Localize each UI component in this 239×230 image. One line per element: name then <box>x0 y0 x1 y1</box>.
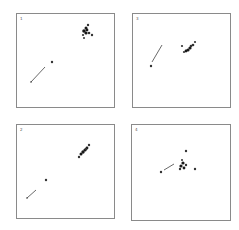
data-point <box>150 65 152 67</box>
panel-4-frame <box>132 125 231 221</box>
figure-canvas: 1 3 2 4 <box>0 0 239 230</box>
data-point <box>91 34 93 36</box>
data-point <box>185 164 187 166</box>
data-point <box>84 31 87 34</box>
data-point <box>181 161 184 164</box>
data-point <box>181 159 183 161</box>
panel-3: 3 <box>133 14 231 108</box>
data-point <box>183 167 186 170</box>
data-point <box>78 156 80 158</box>
data-point <box>80 153 83 156</box>
data-point <box>85 148 88 151</box>
data-point <box>88 32 91 35</box>
data-point <box>88 144 90 146</box>
data-point <box>179 168 181 170</box>
data-point <box>87 24 89 26</box>
panel-1-frame <box>17 14 115 108</box>
data-point <box>194 168 196 170</box>
panel-2: 2 <box>17 125 115 219</box>
data-point <box>181 45 183 47</box>
data-point <box>86 29 89 32</box>
data-point <box>83 37 85 39</box>
data-point <box>26 197 28 199</box>
data-point <box>185 150 187 152</box>
data-point <box>45 179 47 181</box>
data-point <box>194 41 196 43</box>
data-point <box>179 164 182 167</box>
data-point <box>82 34 84 36</box>
panel-2-frame <box>17 125 115 219</box>
data-point <box>30 81 32 83</box>
panel-3-frame <box>133 14 231 108</box>
data-point <box>160 171 162 173</box>
data-point <box>190 45 193 48</box>
data-point <box>183 51 185 53</box>
data-point <box>51 61 53 63</box>
panel-4: 4 <box>132 125 231 221</box>
panel-1: 1 <box>17 14 115 108</box>
